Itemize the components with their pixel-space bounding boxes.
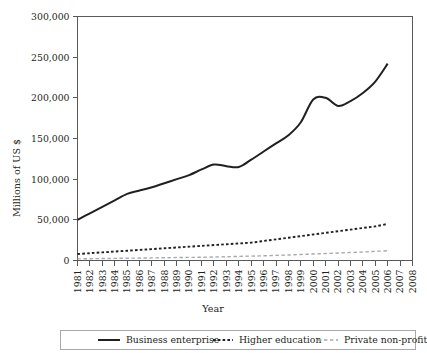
plot-frame (78, 17, 413, 261)
x-tick-label: 2000 (308, 269, 319, 293)
legend-items: Business enterpriseHigher educationPriva… (98, 334, 427, 345)
y-tick-label: 300,000 (31, 11, 70, 22)
y-axis-tick-labels: 050,000100,000150,000200,000250,000300,0… (31, 11, 70, 266)
y-axis-title: Millions of US $ (11, 139, 22, 217)
legend-label: Private non-profit (344, 334, 427, 345)
series-line-private-non-profit (78, 251, 388, 259)
x-tick-label: 1982 (84, 270, 95, 294)
x-tick-label: 1997 (270, 269, 281, 293)
x-tick-label: 1985 (121, 269, 132, 293)
y-tick-label: 150,000 (31, 133, 70, 144)
x-tick-label: 1992 (208, 270, 219, 294)
x-tick-label: 1988 (159, 269, 170, 293)
x-tick-label: 2006 (382, 269, 393, 293)
y-axis-ticks (73, 17, 78, 261)
x-tick-label: 1987 (146, 269, 157, 293)
x-tick-label: 1989 (171, 269, 182, 293)
x-tick-label: 2002 (332, 270, 343, 294)
x-axis-tick-labels: 1981198219831984198519861987198819891990… (72, 269, 418, 293)
x-tick-label: 1981 (72, 270, 83, 294)
x-axis-ticks (78, 261, 413, 266)
x-tick-label: 1990 (183, 269, 194, 293)
x-tick-label: 1995 (246, 269, 257, 293)
chart-container: Millions of US $ 050,000100,000150,00020… (0, 0, 427, 353)
line-chart-svg: Millions of US $ 050,000100,000150,00020… (0, 0, 427, 353)
x-tick-label: 2005 (370, 269, 381, 293)
x-tick-label: 1991 (196, 270, 207, 294)
series-line-higher-education (78, 224, 388, 254)
data-series-group (78, 64, 388, 259)
x-tick-label: 1993 (221, 269, 232, 293)
x-tick-label: 1999 (295, 269, 306, 293)
series-line-business-enterprise (78, 64, 388, 220)
x-axis-title: Year (201, 303, 224, 314)
x-tick-label: 1996 (258, 269, 269, 293)
legend-label: Business enterprise (126, 334, 220, 345)
y-axis-title-group: Millions of US $ (11, 139, 22, 217)
y-tick-label: 0 (64, 255, 70, 266)
x-tick-label: 2001 (320, 270, 331, 294)
x-tick-label: 1998 (283, 269, 294, 293)
x-tick-label: 2003 (345, 269, 356, 293)
y-tick-label: 200,000 (31, 92, 70, 103)
y-tick-label: 100,000 (31, 174, 70, 185)
x-tick-label: 1983 (97, 269, 108, 293)
x-tick-label: 2004 (357, 269, 368, 293)
legend: Business enterpriseHigher educationPriva… (61, 331, 427, 350)
legend-label: Higher education (239, 334, 321, 345)
x-tick-label: 1994 (233, 269, 244, 293)
x-tick-label: 1984 (109, 269, 120, 293)
y-tick-label: 250,000 (31, 52, 70, 63)
x-tick-label: 2007 (394, 269, 405, 293)
x-tick-label: 2008 (407, 269, 418, 293)
x-tick-label: 1986 (134, 269, 145, 293)
y-tick-label: 50,000 (37, 214, 70, 225)
plot-border (78, 17, 413, 261)
